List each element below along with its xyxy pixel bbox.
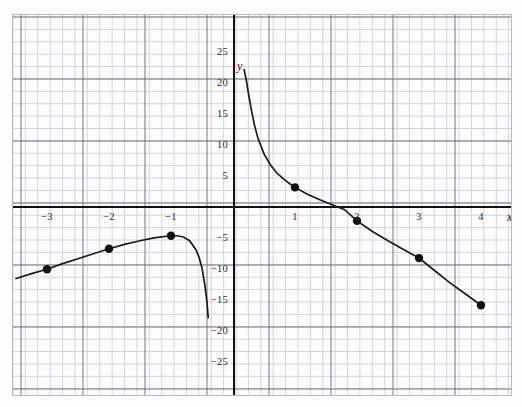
- point-neg1: [167, 232, 175, 240]
- curve-layer: [13, 15, 511, 395]
- function-curves: [16, 70, 481, 318]
- y-tick-label: 25: [203, 46, 228, 57]
- x-tick-label: 2: [354, 211, 359, 222]
- point-neg3: [43, 265, 51, 273]
- curve-right-branch: [244, 70, 481, 306]
- x-axis-label: x: [507, 210, 512, 225]
- y-tick-label: 20: [203, 77, 228, 88]
- y-tick-label: 5: [203, 170, 228, 181]
- data-point-markers: [43, 183, 485, 309]
- plot-area: −3−2−11234252015105−5−10−15−20−25 y x: [12, 14, 512, 396]
- x-tick-label: −3: [41, 211, 53, 222]
- y-axis-label: y: [237, 59, 242, 74]
- point-4: [477, 301, 485, 309]
- y-tick-label: −20: [203, 325, 228, 336]
- point-3: [415, 254, 423, 262]
- graph-figure: −3−2−11234252015105−5−10−15−20−25 y x: [0, 0, 522, 407]
- y-tick-label: −25: [203, 356, 228, 367]
- y-tick-label: −15: [203, 294, 228, 305]
- point-1: [291, 183, 299, 191]
- x-tick-label: 1: [292, 211, 297, 222]
- y-tick-label: −5: [203, 232, 228, 243]
- x-tick-label: −2: [103, 211, 115, 222]
- x-tick-label: 3: [416, 211, 421, 222]
- x-tick-label: −1: [165, 211, 177, 222]
- y-tick-label: −10: [203, 263, 228, 274]
- y-tick-label: 10: [203, 139, 228, 150]
- x-tick-label: 4: [478, 211, 483, 222]
- y-tick-label: 15: [203, 108, 228, 119]
- point-neg2: [105, 245, 113, 253]
